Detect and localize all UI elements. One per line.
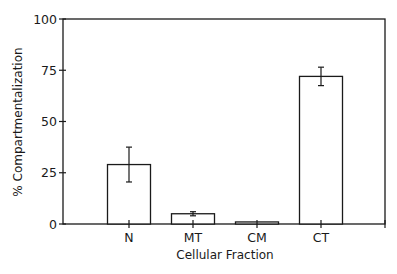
y-tick-label: 25 (41, 165, 57, 180)
bar-rect (300, 76, 343, 224)
y-axis: 0255075100 (33, 12, 66, 232)
x-tick-label: CT (313, 230, 330, 245)
x-axis-title: Cellular Fraction (176, 248, 273, 262)
bar-n (108, 147, 151, 224)
bar-ct (300, 67, 343, 224)
x-tick-label: MT (184, 230, 203, 245)
x-tick-label: CM (247, 230, 267, 245)
y-tick-label: 100 (33, 12, 57, 27)
y-tick-label: 75 (41, 63, 57, 78)
y-tick-label: 0 (49, 217, 57, 232)
x-tick-label: N (124, 230, 133, 245)
bars (108, 67, 343, 224)
y-axis-title: % Compartmentalization (11, 47, 25, 196)
bar-chart: 0255075100 NMTCMCT % Compartmentalizatio… (0, 0, 397, 274)
y-tick-label: 50 (41, 114, 57, 129)
